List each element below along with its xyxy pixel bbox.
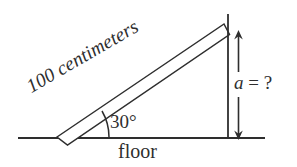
height-variable: a — [234, 72, 244, 93]
floor-label: floor — [118, 141, 157, 161]
height-label: a = ? — [234, 73, 272, 92]
angle-label: 30° — [110, 112, 137, 131]
question-mark: ? — [264, 72, 272, 93]
geometry-figure: 100 centimeters 30° a = ? floor — [0, 0, 297, 167]
equals-sign: = — [248, 72, 259, 93]
